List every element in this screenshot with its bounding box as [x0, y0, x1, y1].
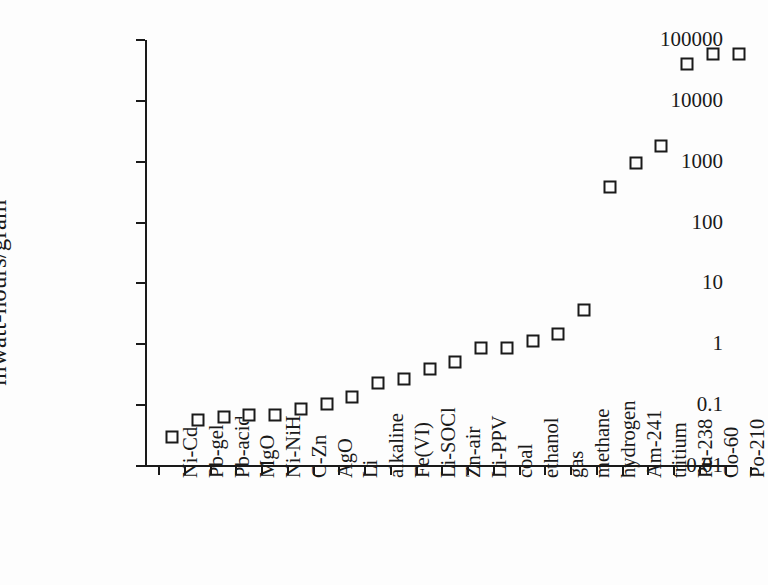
data-point-marker: [217, 410, 230, 423]
x-tick-label: Fe(VI): [412, 422, 433, 478]
y-tick: [136, 404, 145, 406]
x-tick-label: Am-241: [644, 410, 665, 478]
data-point-marker: [732, 47, 745, 60]
x-tick-label: methane: [592, 409, 613, 478]
data-point-marker: [475, 341, 488, 354]
data-point-marker: [397, 372, 410, 385]
y-tick: [136, 222, 145, 224]
x-tick-label: ethanol: [541, 418, 562, 478]
data-point-marker: [526, 334, 539, 347]
y-tick-label: 10000: [671, 90, 724, 111]
x-tick-label: C-Zn: [309, 435, 330, 478]
data-point-marker: [552, 327, 565, 340]
x-tick-label: hydrogen: [618, 401, 639, 478]
x-tick-label: Ni-Cd: [180, 427, 201, 478]
y-tick-label: 1: [713, 333, 724, 354]
y-tick-label: 10: [702, 272, 723, 293]
data-point-marker: [603, 181, 616, 194]
y-tick-label: 0.1: [697, 394, 723, 415]
data-point-marker: [346, 391, 359, 404]
data-point-marker: [681, 58, 694, 71]
data-point-marker: [269, 409, 282, 422]
data-point-marker: [320, 397, 333, 410]
y-tick-label: 100: [692, 212, 724, 233]
y-tick: [136, 465, 145, 467]
y-axis-line: [145, 40, 147, 467]
data-point-marker: [629, 157, 642, 170]
y-axis-title-text: mwatt-hours/gram: [0, 199, 12, 385]
x-tick-label: Li: [360, 460, 381, 478]
x-tick-label: Zn-air: [463, 427, 484, 478]
x-tick-label: MgO: [257, 435, 278, 478]
y-axis-title: mwatt-hours/gram: [0, 0, 40, 585]
data-point-marker: [372, 377, 385, 390]
data-point-marker: [294, 403, 307, 416]
y-tick: [136, 39, 145, 41]
data-point-marker: [191, 414, 204, 427]
x-tick-label: Li-SOCl: [438, 407, 459, 478]
x-tick-label: Ni-NiH: [283, 415, 304, 478]
data-point-marker: [655, 140, 668, 153]
x-tick-label: Po-210: [747, 419, 768, 478]
data-point-marker: [166, 430, 179, 443]
x-tick: [158, 467, 160, 475]
x-tick-label: Pu-238: [695, 419, 716, 478]
x-tick-label: coal: [515, 444, 536, 478]
y-tick: [136, 282, 145, 284]
data-point-marker: [500, 342, 513, 355]
x-tick-label: Pb-acid: [232, 415, 253, 478]
x-tick-label: AgO: [335, 438, 356, 478]
x-tick-label: Li-PPV: [489, 415, 510, 478]
x-tick-label: alkaline: [386, 413, 407, 478]
data-point-marker: [423, 362, 436, 375]
y-tick: [136, 161, 145, 163]
data-point-marker: [449, 356, 462, 369]
x-tick-label: Pb-gel: [206, 424, 227, 478]
data-point-marker: [243, 408, 256, 421]
plot-area: 1000001000010001001010.10.01 Ni-CdPb-gel…: [145, 40, 737, 466]
x-tick-label: gas: [566, 451, 587, 478]
y-tick-label: 1000: [681, 151, 723, 172]
data-point-marker: [578, 303, 591, 316]
x-tick-label: Co-60: [721, 427, 742, 478]
y-tick: [136, 343, 145, 345]
data-point-marker: [706, 47, 719, 60]
x-tick-label: tritium: [669, 422, 690, 478]
y-tick: [136, 100, 145, 102]
